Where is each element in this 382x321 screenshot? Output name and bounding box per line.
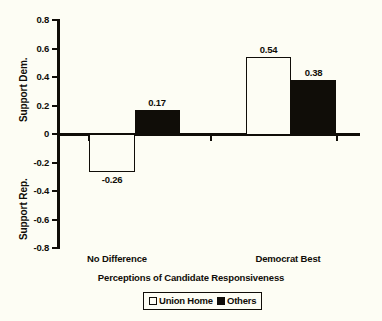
bar-chart-figure: 0.8 0.6 0.4 0.2 0 -0.2 -0.4 -0.6 -0.8 -0…: [0, 0, 382, 321]
bar-democrat-best-others: [291, 80, 336, 135]
bar-no-difference-union-home: [89, 134, 135, 172]
legend-swatch-hollow-icon: [149, 297, 157, 305]
y-tick-label-0: 0.8: [21, 14, 49, 25]
y-tick-0.2: [52, 105, 57, 107]
legend-swatch-filled-icon: [217, 297, 225, 305]
y-tick--0.8: [52, 247, 57, 249]
y-axis-title-upper: Support Dem.: [18, 58, 29, 122]
bar-value-democrat-best-others: 0.38: [291, 67, 336, 78]
x-tick-group-2: [336, 136, 338, 141]
x-tick-mid: [210, 136, 212, 141]
y-tick-0.4: [52, 76, 57, 78]
y-tick-0.8: [52, 19, 57, 21]
bar-value-democrat-best-union-home: 0.54: [246, 44, 291, 55]
y-tick-label-4: 0: [21, 128, 49, 139]
x-category-label-democrat-best: Democrat Best: [233, 253, 343, 264]
y-tick-label-1: 0.6: [21, 43, 49, 54]
legend-item-others: Others: [217, 295, 256, 306]
y-tick--0.2: [52, 162, 57, 164]
bar-no-difference-others: [135, 110, 180, 135]
bar-democrat-best-union-home: [246, 57, 291, 135]
legend-item-union-home: Union Home: [149, 295, 213, 306]
bar-value-no-difference-others: 0.17: [134, 97, 180, 108]
y-tick-0.6: [52, 48, 57, 50]
y-axis-title-lower: Support Rep.: [18, 178, 29, 240]
legend-label-union-home: Union Home: [159, 295, 213, 306]
y-tick--0.4: [52, 190, 57, 192]
y-tick--0.6: [52, 219, 57, 221]
y-tick-label-8: -0.8: [21, 242, 49, 253]
legend-label-others: Others: [227, 295, 256, 306]
chart-legend: Union Home Others: [143, 292, 262, 310]
y-tick-label-5: -0.2: [21, 157, 49, 168]
bar-value-no-difference-union-home: -0.26: [89, 174, 135, 185]
x-axis-title: Perceptions of Candidate Responsiveness: [0, 272, 382, 283]
y-tick-0: [52, 133, 57, 135]
x-category-label-no-difference: No Difference: [62, 253, 172, 264]
